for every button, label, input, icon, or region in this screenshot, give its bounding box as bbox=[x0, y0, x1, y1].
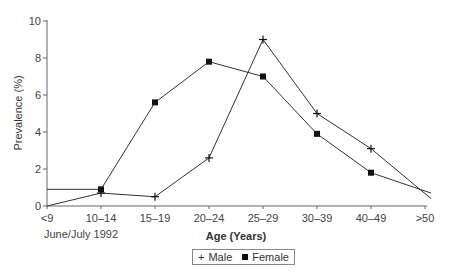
female-data-point bbox=[152, 99, 158, 105]
female-data-point bbox=[260, 74, 266, 80]
male-data-point bbox=[259, 36, 267, 44]
plus-marker-icon: + bbox=[198, 251, 204, 263]
y-axis-title: Prevalence (%) bbox=[12, 75, 24, 150]
y-axis: 0246810 bbox=[29, 15, 47, 212]
male-data-point bbox=[205, 154, 213, 162]
date-annotation: June/July 1992 bbox=[44, 228, 118, 240]
x-tick-label: <9 bbox=[41, 212, 54, 224]
x-tick-label: >50 bbox=[416, 212, 435, 224]
y-tick-label: 4 bbox=[35, 126, 41, 138]
y-tick-label: 6 bbox=[35, 89, 41, 101]
x-axis-title: Age (Years) bbox=[206, 230, 267, 242]
series-line-male bbox=[47, 40, 431, 207]
female-data-point bbox=[368, 170, 374, 176]
square-marker-icon bbox=[242, 254, 248, 260]
x-tick-label: 15–19 bbox=[140, 212, 171, 224]
y-tick-label: 0 bbox=[35, 200, 41, 212]
female-data-point bbox=[314, 131, 320, 137]
y-tick-label: 10 bbox=[29, 15, 41, 27]
series-group bbox=[47, 36, 431, 207]
male-data-point bbox=[313, 110, 321, 118]
y-tick-label: 8 bbox=[35, 52, 41, 64]
x-tick-label: 25–29 bbox=[248, 212, 279, 224]
female-data-point bbox=[98, 186, 104, 192]
x-tick-label: 10–14 bbox=[86, 212, 117, 224]
x-axis: <910–1415–1920–2425–2930–3940–49>50 bbox=[41, 206, 435, 224]
x-tick-label: 20–24 bbox=[194, 212, 225, 224]
y-tick-label: 2 bbox=[35, 163, 41, 175]
male-data-point bbox=[151, 193, 159, 201]
x-tick-label: 30–39 bbox=[302, 212, 333, 224]
female-data-point bbox=[206, 59, 212, 65]
legend-male-label: Male bbox=[208, 251, 232, 263]
x-tick-label: 40–49 bbox=[356, 212, 387, 224]
legend: + Male Female bbox=[192, 249, 295, 265]
legend-female-label: Female bbox=[252, 251, 289, 263]
